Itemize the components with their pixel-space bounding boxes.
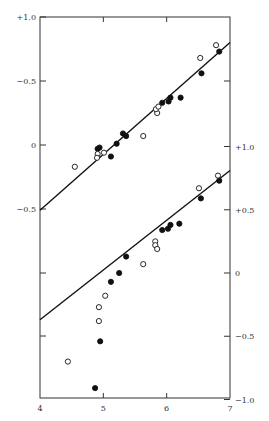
left-tick-label: −0.5 — [17, 77, 36, 86]
filled-circle-marker — [178, 95, 183, 100]
open-circle-marker — [198, 55, 203, 60]
x-tick-label: 4 — [37, 404, 42, 413]
filled-circle-marker — [98, 339, 103, 344]
open-circle-marker — [96, 305, 101, 310]
filled-circle-marker — [168, 222, 173, 227]
filled-circle-marker — [108, 279, 113, 284]
filled-circle-marker — [168, 95, 173, 100]
open-circle-marker — [101, 150, 106, 155]
open-circle-marker — [213, 43, 218, 48]
fit-lines — [40, 43, 230, 320]
filled-circle-marker — [117, 270, 122, 275]
filled-circle-marker — [93, 386, 98, 391]
filled-circle-marker — [217, 178, 222, 183]
right-tick-label: −0.5 — [235, 332, 254, 341]
x-tick-label: 5 — [101, 404, 106, 413]
open-circle-marker — [215, 173, 220, 178]
filled-circle-marker — [198, 196, 203, 201]
x-tick-label: 6 — [164, 404, 169, 413]
open-circle-marker — [94, 155, 99, 160]
open-circle-marker — [96, 318, 101, 323]
right-tick-label: +0.5 — [235, 206, 254, 215]
scatter-chart: 4567+1.0−0.50−0.5+1.0+0.50−0.5−1.0 — [0, 0, 269, 421]
data-points — [65, 43, 222, 391]
open-circle-marker — [156, 104, 161, 109]
left-tick-label: +1.0 — [17, 13, 36, 22]
filled-circle-marker — [108, 154, 113, 159]
filled-circle-marker — [217, 49, 222, 54]
filled-circle-marker — [124, 254, 129, 259]
upper-fit-line — [40, 43, 230, 211]
lower-fit-line — [40, 171, 230, 320]
open-circle-marker — [141, 262, 146, 267]
open-circle-marker — [65, 359, 70, 364]
right-tick-label: +1.0 — [235, 143, 254, 152]
open-circle-marker — [103, 293, 108, 298]
right-tick-label: 0 — [235, 269, 240, 278]
open-circle-marker — [155, 246, 160, 251]
open-circle-marker — [196, 186, 201, 191]
right-tick-label: −1.0 — [235, 396, 254, 405]
filled-circle-marker — [199, 71, 204, 76]
axis-labels: 4567+1.0−0.50−0.5+1.0+0.50−0.5−1.0 — [17, 13, 255, 413]
x-tick-label: 7 — [227, 404, 232, 413]
filled-circle-marker — [177, 221, 182, 226]
filled-circle-marker — [160, 227, 165, 232]
filled-circle-marker — [97, 145, 102, 150]
left-tick-label: −0.5 — [17, 205, 36, 214]
open-circle-marker — [141, 133, 146, 138]
filled-circle-marker — [114, 141, 119, 146]
filled-circle-marker — [124, 133, 129, 138]
left-tick-label: 0 — [31, 141, 36, 150]
open-circle-marker — [72, 164, 77, 169]
